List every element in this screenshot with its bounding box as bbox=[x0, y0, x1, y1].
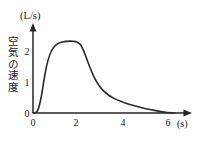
figure-root: (L/s) 空気の速度 0 2 4 6 (s) 0 1 2 bbox=[0, 0, 201, 148]
x-tick-label-2: 2 bbox=[74, 117, 79, 128]
x-tick-label-4: 4 bbox=[121, 117, 126, 128]
y-tick-label-0: 0 bbox=[25, 108, 30, 119]
x-axis-arrow-icon bbox=[184, 110, 193, 117]
y-axis-arrow-icon bbox=[30, 23, 37, 32]
air-velocity-line-chart: 0 2 4 6 (s) 0 1 2 bbox=[0, 0, 201, 148]
x-axis-unit-label: (s) bbox=[177, 118, 188, 130]
y-tick-label-2: 2 bbox=[25, 46, 30, 57]
x-tick-label-0: 0 bbox=[31, 117, 36, 128]
x-tick-label-6: 6 bbox=[166, 117, 171, 128]
air-velocity-curve bbox=[33, 41, 175, 113]
y-tick-label-1: 1 bbox=[25, 77, 30, 88]
